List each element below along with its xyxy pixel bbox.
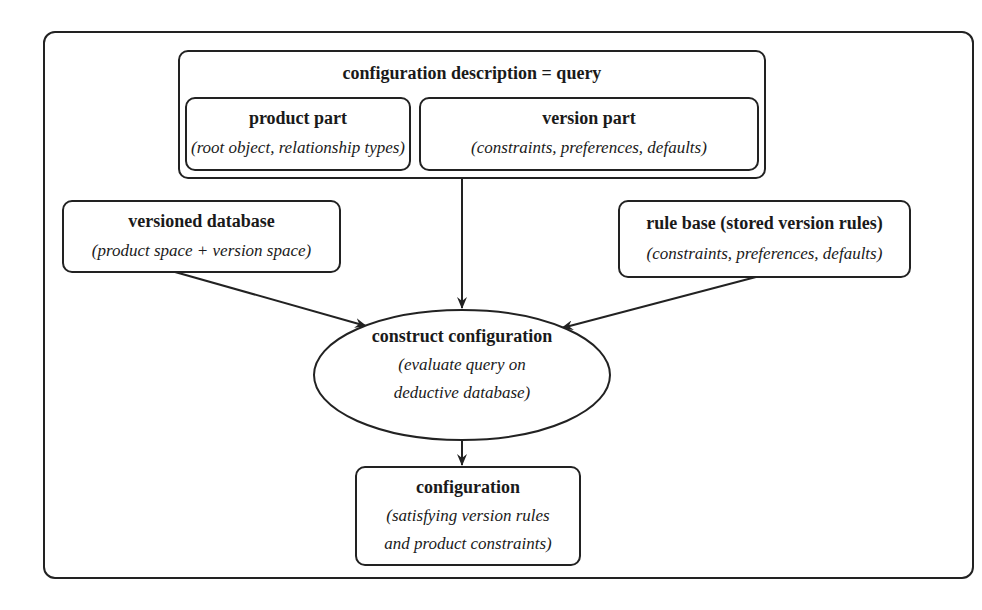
version-part-subtitle: (constraints, preferences, defaults) (421, 136, 757, 160)
versioned-database-subtitle: (product space + version space) (64, 239, 339, 263)
versioned-database-box: versioned database (product space + vers… (62, 200, 341, 273)
query-title: configuration description = query (180, 62, 764, 84)
configuration-subtitle-line2: and product constraints) (357, 532, 579, 556)
version-part-title: version part (421, 107, 757, 129)
versioned-database-title: versioned database (64, 210, 339, 232)
construct-title: construct configuration (314, 325, 610, 347)
rule-base-box: rule base (stored version rules) (constr… (618, 200, 911, 278)
configuration-title: configuration (357, 476, 579, 498)
rule-base-subtitle: (constraints, preferences, defaults) (620, 242, 909, 266)
construct-configuration-label: construct configuration (evaluate query … (314, 325, 610, 405)
construct-subtitle-line1: (evaluate query on (314, 353, 610, 377)
configuration-subtitle-line1: (satisfying version rules (357, 504, 579, 528)
construct-subtitle-line2: deductive database) (314, 381, 610, 405)
arrow-database-to-construct (175, 272, 366, 326)
arrow-rulebase-to-construct (562, 277, 756, 328)
product-part-title: product part (187, 107, 409, 129)
version-part-box: version part (constraints, preferences, … (419, 97, 759, 171)
product-part-box: product part (root object, relationship … (185, 97, 411, 171)
configuration-box: configuration (satisfying version rules … (355, 466, 581, 566)
product-part-subtitle: (root object, relationship types) (187, 136, 409, 160)
rule-base-title: rule base (stored version rules) (620, 212, 909, 234)
